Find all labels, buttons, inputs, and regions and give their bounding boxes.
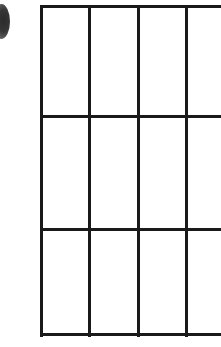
grid-row-divider	[40, 5, 221, 8]
grid-cell[interactable]	[138, 6, 186, 116]
bullet-marker-icon	[0, 4, 10, 39]
grid-cell[interactable]	[41, 229, 89, 334]
grid-column-divider	[88, 6, 91, 337]
grid-cell[interactable]	[41, 116, 89, 229]
grid-cell[interactable]	[89, 229, 138, 334]
grid-cell[interactable]	[138, 116, 186, 229]
grid-column-divider	[40, 6, 43, 337]
grid-column-divider	[185, 6, 188, 337]
grid-row-divider	[40, 115, 221, 118]
grid-cell[interactable]	[89, 116, 138, 229]
grid-cell[interactable]	[138, 229, 186, 334]
grid-cell[interactable]	[89, 6, 138, 116]
grid-cell[interactable]	[41, 6, 89, 116]
grid-cell[interactable]	[186, 6, 221, 116]
grid-cell[interactable]	[186, 229, 221, 334]
grid-row-divider	[40, 228, 221, 231]
grid-cell[interactable]	[186, 116, 221, 229]
grid-column-divider	[137, 6, 140, 337]
grid-row-divider	[40, 333, 221, 336]
page-canvas	[0, 0, 221, 347]
